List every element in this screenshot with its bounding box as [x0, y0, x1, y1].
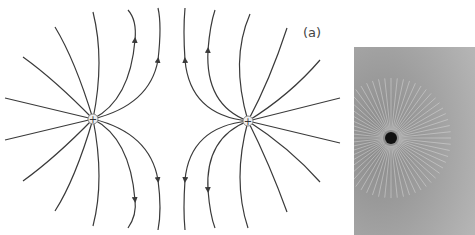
field-line	[248, 121, 340, 143]
field-line	[240, 121, 248, 228]
field-line	[5, 119, 93, 140]
svg-text:+: +	[244, 116, 252, 127]
right-charge: +	[243, 116, 253, 127]
field-line	[55, 27, 93, 119]
field-line	[5, 98, 93, 119]
iron-filings-photo	[354, 47, 475, 235]
svg-text:+: +	[89, 114, 97, 125]
field-line	[184, 121, 248, 230]
field-line	[248, 98, 340, 121]
charge-dot	[385, 132, 397, 144]
field-line	[184, 8, 248, 121]
field-line	[208, 10, 248, 121]
figure-label: (a)	[303, 25, 321, 40]
field-line-diagram: + +	[0, 0, 354, 235]
field-line	[208, 121, 248, 228]
field-line	[93, 119, 99, 226]
field-line	[239, 14, 250, 121]
field-line	[93, 119, 160, 230]
field-line	[93, 8, 160, 119]
field-line	[93, 12, 99, 119]
field-line	[248, 28, 287, 121]
field-line	[55, 119, 93, 211]
left-charge: +	[88, 114, 98, 125]
